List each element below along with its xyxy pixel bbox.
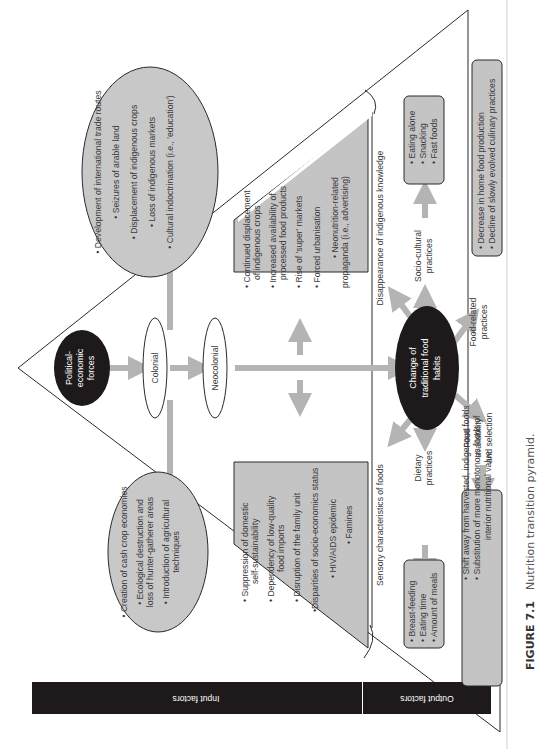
factor-bar: Input factors Output factors <box>32 682 491 714</box>
svg-text:• Rise of 'super' markets: • Rise of 'super' markets <box>294 196 304 288</box>
svg-text:• Introduction of agricultural: • Introduction of agricultural <box>161 500 171 604</box>
svg-text:interior nutritional value: interior nutritional value <box>483 451 493 540</box>
neocolonial-upper-box: • Continued displacement of indigenous c… <box>234 112 372 288</box>
svg-text:• Decrease in home food produc: • Decrease in home food production <box>476 112 486 249</box>
input-factors-label: Input factors <box>173 694 220 704</box>
svg-text:• Decline of slowly evolved cu: • Decline of slowly evolved culinary pra… <box>487 79 497 249</box>
svg-text:• Fast foods: • Fast foods <box>429 118 439 164</box>
svg-text:Colonial: Colonial <box>150 352 160 383</box>
neocolonial-node: Neocolonial <box>203 318 227 418</box>
svg-text:• Neonutrition-related: • Neonutrition-related <box>330 177 340 258</box>
food-related-box: • Decrease in home food production • Dec… <box>472 60 502 256</box>
svg-text:• Displacement of indigenous c: • Displacement of indigenous crops <box>129 105 139 239</box>
svg-text:techniques: techniques <box>171 531 181 573</box>
svg-text:• Creation of cash crop econom: • Creation of cash crop economies <box>119 486 129 617</box>
svg-text:habits: habits <box>432 355 442 380</box>
sensory-label: Sensory characteristics of foods <box>375 464 385 586</box>
figure-label: FIGURE 7.1 <box>524 601 537 670</box>
svg-text:• Suppression of domestic: • Suppression of domestic <box>240 502 250 602</box>
svg-text:• Shift away from harvested, i: • Shift away from harvested, indigenous … <box>461 405 471 580</box>
svg-text:Political-: Political- <box>64 351 74 385</box>
dietary-label: Dietary <box>413 454 423 482</box>
svg-text:economic: economic <box>75 348 85 387</box>
svg-text:• Forced urbanisation: • Forced urbanisation <box>312 206 322 288</box>
neocolonial-lower-box: • Suppression of domestic self-sustainab… <box>234 462 368 648</box>
svg-text:Change of: Change of <box>408 347 418 389</box>
svg-text:traditional food: traditional food <box>420 338 430 397</box>
socio-cultural-label: Socio-cultural <box>413 230 423 282</box>
food-related-label: Food-related <box>468 297 478 346</box>
svg-text:• Ecological destruction and: • Ecological destruction and <box>135 499 145 605</box>
svg-text:• Increased availability of: • Increased availability of <box>268 193 278 288</box>
socio-cultural-box: • Eating alone • Snacking • Fast foods <box>404 96 444 184</box>
svg-text:• Disruption of the family uni: • Disruption of the family unit <box>292 492 302 602</box>
svg-text:• Amount of meals: • Amount of meals <box>429 573 439 642</box>
svg-text:• Breast-feeding: • Breast-feeding <box>407 580 417 642</box>
svg-text:practices: practices <box>424 451 434 485</box>
dietary-box: • Breast-feeding • Eating time • Amount … <box>404 560 444 648</box>
svg-text:• Continued displacement: • Continued displacement <box>242 190 252 288</box>
svg-text:propaganda (i.e., advertising): propaganda (i.e., advertising) <box>340 176 350 288</box>
svg-text:loss of hunter-gatherer areas: loss of hunter-gatherer areas <box>145 497 155 607</box>
svg-text:self-sustainability: self-sustainability <box>250 518 260 584</box>
svg-text:• Substitution of more monoton: • Substitution of more monotonous foods … <box>472 415 482 580</box>
svg-text:processed food products: processed food products <box>278 186 288 280</box>
svg-text:• Cultural indoctrination (i.e: • Cultural indoctrination (i.e., 'educat… <box>165 95 175 249</box>
svg-text:food imports: food imports <box>276 525 286 572</box>
svg-text:•Disparities of socio-economic: •Disparities of socio-economics status <box>310 468 320 612</box>
svg-text:• Snacking: • Snacking <box>418 123 428 164</box>
svg-text:• HIV/AIDS epidemic: • HIV/AIDS epidemic <box>328 498 338 578</box>
svg-text:• Development of international: • Development of international trade rou… <box>93 90 103 253</box>
figure-caption: FIGURE 7.1 Nutrition transition pyramid. <box>524 433 537 670</box>
svg-text:of indigenous crops: of indigenous crops <box>252 205 262 280</box>
svg-text:• Dependency of low-quality: • Dependency of low-quality <box>266 495 276 602</box>
svg-text:• Eating alone: • Eating alone <box>407 111 417 164</box>
svg-text:• Loss of indigenous markets: • Loss of indigenous markets <box>147 117 157 227</box>
svg-text:practices: practices <box>479 305 489 339</box>
figure-title: Nutrition transition pyramid. <box>524 433 537 590</box>
change-of-food-habits-node: Change of traditional food habits <box>395 306 459 430</box>
political-economic-forces-node: Political- economic forces <box>54 330 110 406</box>
output-factors-label: Output factors <box>400 694 453 704</box>
svg-text:• Famines: • Famines <box>344 506 354 544</box>
disappearance-label: Disappearance of indigenous knowledge <box>375 150 385 305</box>
svg-text:practices: practices <box>424 239 434 273</box>
svg-text:Neocolonial: Neocolonial <box>210 345 220 390</box>
svg-text:• Seizures of arable land: • Seizures of arable land <box>111 125 121 219</box>
colonial-lower-ellipse: • Creation of cash crop economies • Ecol… <box>108 472 208 632</box>
svg-text:forces: forces <box>86 355 96 380</box>
colonial-node: Colonial <box>143 318 167 418</box>
colonial-upper-ellipse: • Development of international trade rou… <box>82 67 218 277</box>
svg-text:• Eating time: • Eating time <box>418 593 428 642</box>
food-availability-box: • Shift away from harvested, indigenous … <box>461 405 502 686</box>
nutrition-transition-pyramid-diagram: Input factors Output factors Political- … <box>0 0 547 749</box>
